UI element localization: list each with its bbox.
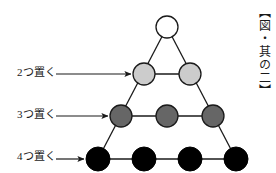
circle-row2-2 xyxy=(179,63,201,85)
figure-caption: 【図・其の二】 xyxy=(252,6,270,97)
circle-row4-2 xyxy=(132,147,156,171)
row-1-circles xyxy=(156,16,178,38)
triangle-left-edge xyxy=(98,27,167,159)
triangle-right-edge xyxy=(167,27,236,159)
circle-row4-1 xyxy=(86,147,110,171)
circle-row3-3 xyxy=(202,105,224,127)
triangle-diagram xyxy=(0,0,276,173)
row-3-circles xyxy=(110,105,224,127)
circle-row4-3 xyxy=(178,147,202,171)
circle-row1-1 xyxy=(156,16,178,38)
circle-row3-2 xyxy=(156,105,178,127)
circle-row4-4 xyxy=(224,147,248,171)
circle-row2-1 xyxy=(133,63,155,85)
label-row-3: 3つ置く xyxy=(17,109,56,120)
circle-row3-1 xyxy=(110,105,132,127)
label-row-4: 4つ置く xyxy=(17,151,56,162)
triangle-outline xyxy=(98,27,236,159)
figure-canvas: 2つ置く 3つ置く 4つ置く 【図・其の二】 xyxy=(0,0,276,173)
label-row-2: 2つ置く xyxy=(17,67,56,78)
